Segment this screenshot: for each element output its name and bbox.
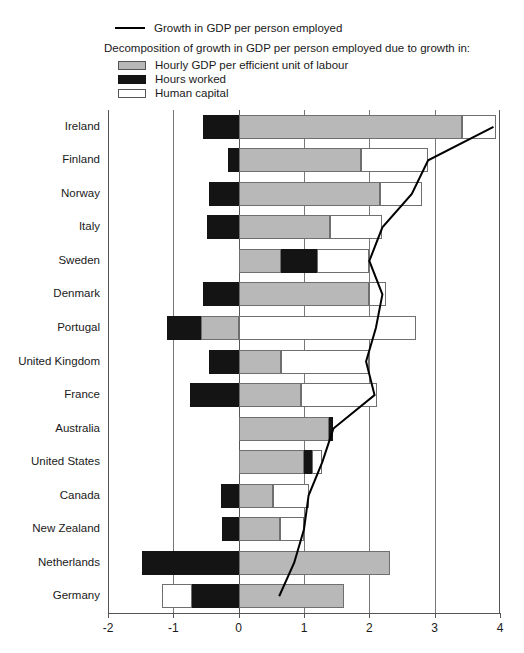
bar-segment-hours-worked (329, 417, 334, 441)
category-label: Finland (62, 153, 100, 165)
bar-row (108, 383, 500, 407)
bar-row (108, 282, 500, 306)
bar-segment-human-capital (301, 383, 377, 407)
x-tick (435, 613, 436, 618)
category-label: France (64, 388, 100, 400)
legend-item-hourly-gdp: Hourly GDP per efficient unit of labour (118, 59, 348, 72)
bar-row (108, 148, 500, 172)
bar-segment-hours-worked (281, 249, 317, 273)
bar-segment-hours-worked (222, 517, 238, 541)
bar-segment-hourly-gdp (239, 350, 281, 374)
legend-line-label: Growth in GDP per person employed (154, 22, 342, 34)
x-tick-label: 1 (284, 621, 324, 635)
legend-item-human-capital: Human capital (118, 87, 348, 100)
x-tick (304, 613, 305, 618)
white-swatch-icon (118, 89, 146, 98)
legend-heading: Decomposition of growth in GDP per perso… (104, 42, 470, 54)
bar-row (108, 115, 500, 139)
category-label: Portugal (57, 321, 100, 333)
legend-line-entry: Growth in GDP per person employed (115, 22, 342, 34)
bar-segment-human-capital (281, 350, 369, 374)
bar-segment-human-capital (239, 316, 417, 340)
bar-segment-hourly-gdp (201, 316, 239, 340)
bar-row (108, 484, 500, 508)
x-tick-label: 4 (480, 621, 520, 635)
x-tick (108, 613, 109, 618)
category-label: Italy (79, 220, 100, 232)
category-label: Norway (61, 187, 100, 199)
bar-row (108, 517, 500, 541)
bar-segment-hourly-gdp (239, 383, 301, 407)
bar-segment-hourly-gdp (239, 148, 361, 172)
category-label: Denmark (53, 287, 100, 299)
bar-segment-hours-worked (167, 316, 201, 340)
bar-row (108, 551, 500, 575)
category-label: Netherlands (38, 556, 100, 568)
x-tick (173, 613, 174, 618)
legend-label-hours-worked: Hours worked (155, 73, 226, 85)
bar-segment-hours-worked (192, 584, 239, 608)
line-swatch-icon (115, 27, 145, 29)
bar-segment-hourly-gdp (239, 517, 280, 541)
grey-swatch-icon (118, 61, 146, 70)
x-tick-label: -1 (153, 621, 193, 635)
x-tick (500, 613, 501, 618)
bar-segment-hours-worked (142, 551, 239, 575)
bar-segment-hours-worked (221, 484, 239, 508)
bar-segment-hours-worked (228, 148, 239, 172)
bar-segment-human-capital (462, 115, 496, 139)
bar-segment-hours-worked (190, 383, 239, 407)
bar-row (108, 584, 500, 608)
bar-segment-human-capital (280, 517, 304, 541)
legend-item-hours-worked: Hours worked (118, 73, 348, 86)
bar-segment-hourly-gdp (239, 215, 330, 239)
bar-segment-hours-worked (209, 350, 238, 374)
plot-area: -2-101234 IrelandFinlandNorwayItalySwede… (108, 110, 500, 613)
bar-row (108, 350, 500, 374)
category-label: Germany (53, 589, 100, 601)
bar-segment-human-capital (330, 215, 382, 239)
category-label: United States (31, 455, 100, 467)
bar-row (108, 215, 500, 239)
category-label: Canada (60, 489, 100, 501)
category-label: Sweden (58, 254, 100, 266)
chart-root: Growth in GDP per person employed Decomp… (0, 0, 524, 653)
bar-segment-human-capital (273, 484, 309, 508)
category-label: Australia (55, 422, 100, 434)
bar-segment-hourly-gdp (239, 450, 304, 474)
bar-row (108, 316, 500, 340)
bar-segment-hourly-gdp (239, 551, 391, 575)
bar-segment-hourly-gdp (239, 115, 462, 139)
x-tick-label: 3 (415, 621, 455, 635)
x-tick-label: 2 (349, 621, 389, 635)
black-swatch-icon (118, 75, 146, 84)
x-tick-label: 0 (219, 621, 259, 635)
x-tick (369, 613, 370, 618)
category-label: New Zealand (32, 522, 100, 534)
bar-segment-human-capital (380, 182, 421, 206)
bar-segment-hours-worked (203, 115, 238, 139)
bar-row (108, 417, 500, 441)
bar-segment-hourly-gdp (239, 182, 381, 206)
bar-row (108, 249, 500, 273)
bar-segment-hourly-gdp (239, 282, 370, 306)
bar-segment-hourly-gdp (239, 417, 329, 441)
bar-segment-hourly-gdp (239, 584, 345, 608)
x-tick-label: -2 (88, 621, 128, 635)
bar-segment-hours-worked (203, 282, 239, 306)
bar-segment-hourly-gdp (239, 249, 281, 273)
category-label: United Kingdom (18, 355, 100, 367)
bar-segment-hourly-gdp (239, 484, 273, 508)
bar-segment-human-capital (162, 584, 192, 608)
legend-items: Hourly GDP per efficient unit of labour … (118, 59, 348, 101)
x-tick (239, 613, 240, 618)
bar-row (108, 182, 500, 206)
bar-segment-hours-worked (207, 215, 238, 239)
legend-label-hourly-gdp: Hourly GDP per efficient unit of labour (155, 59, 348, 71)
bar-segment-human-capital (317, 249, 369, 273)
bar-segment-hours-worked (209, 182, 239, 206)
bar-segment-human-capital (312, 450, 322, 474)
bar-row (108, 450, 500, 474)
legend-label-human-capital: Human capital (155, 87, 229, 99)
bar-segment-human-capital (361, 148, 428, 172)
